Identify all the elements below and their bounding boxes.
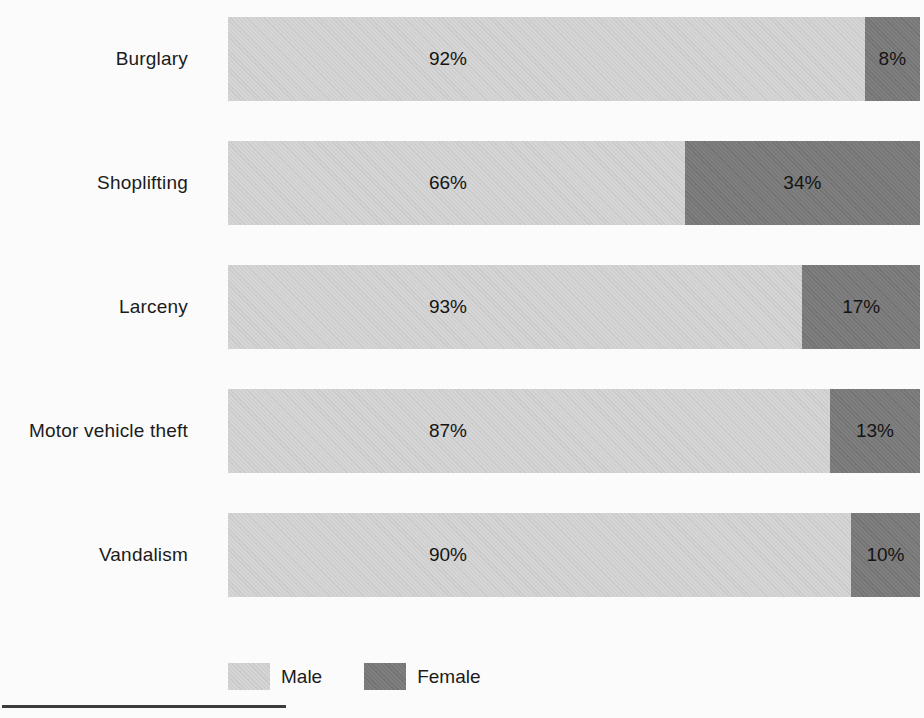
legend-label-male: Male <box>281 666 322 688</box>
category-label-shoplifting: Shoplifting <box>0 141 188 225</box>
male-percent-label: 93% <box>429 296 467 318</box>
bar-segment-male <box>228 389 830 473</box>
bar-segment-male <box>228 265 802 349</box>
bar-burglary: 8% 92% <box>228 17 920 101</box>
male-percent-label: 90% <box>429 544 467 566</box>
bar-segment-female: 10% <box>851 513 920 597</box>
legend-swatch-male <box>228 663 270 690</box>
label-bar-gap <box>188 141 228 225</box>
category-label-burglary: Burglary <box>0 17 188 101</box>
bar-shoplifting: 34% 66% <box>228 141 920 225</box>
male-percent-label: 92% <box>429 48 467 70</box>
legend-label-female: Female <box>417 666 480 688</box>
bar-segment-female: 17% <box>802 265 920 349</box>
chart-row-larceny: Larceny 17% 93% <box>0 265 920 349</box>
category-label-larceny: Larceny <box>0 265 188 349</box>
legend: Male Female <box>228 663 920 690</box>
bar-segment-male <box>228 513 851 597</box>
chart-row-burglary: Burglary 8% 92% <box>0 17 920 101</box>
label-bar-gap <box>188 389 228 473</box>
legend-swatch-female <box>364 663 406 690</box>
male-percent-label: 66% <box>429 172 467 194</box>
footnote-rule <box>2 705 286 708</box>
label-bar-gap <box>188 265 228 349</box>
label-bar-gap <box>188 513 228 597</box>
female-percent-label: 17% <box>842 296 880 318</box>
bar-larceny: 17% 93% <box>228 265 920 349</box>
bar-motor-vehicle-theft: 13% 87% <box>228 389 920 473</box>
chart-row-vandalism: Vandalism 10% 90% <box>0 513 920 597</box>
female-percent-label: 13% <box>856 420 894 442</box>
bar-segment-female: 8% <box>865 17 920 101</box>
bar-vandalism: 10% 90% <box>228 513 920 597</box>
female-percent-label: 8% <box>879 48 906 70</box>
label-bar-gap <box>188 17 228 101</box>
bar-segment-male <box>228 17 865 101</box>
female-percent-label: 10% <box>866 544 904 566</box>
bar-segment-female: 34% <box>685 141 920 225</box>
category-label-vandalism: Vandalism <box>0 513 188 597</box>
male-percent-label: 87% <box>429 420 467 442</box>
female-percent-label: 34% <box>783 172 821 194</box>
stacked-bar-chart: Burglary 8% 92% Shoplifting 34% 66% Larc… <box>0 0 924 718</box>
chart-row-motor-vehicle-theft: Motor vehicle theft 13% 87% <box>0 389 920 473</box>
chart-row-shoplifting: Shoplifting 34% 66% <box>0 141 920 225</box>
category-label-motor-vehicle-theft: Motor vehicle theft <box>0 389 188 473</box>
bar-segment-female: 13% <box>830 389 920 473</box>
